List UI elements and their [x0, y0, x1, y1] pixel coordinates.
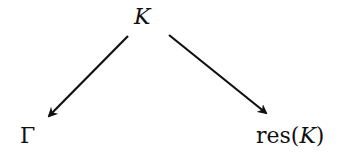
arrow-k-to-res [169, 35, 266, 113]
res-suffix: ) [316, 123, 325, 148]
node-res-k: res(K) [256, 125, 324, 147]
node-k: K [134, 6, 150, 28]
res-prefix: res( [256, 123, 299, 148]
arrow-k-to-gamma [49, 36, 128, 116]
diagram-canvas: K Γ res(K) [0, 0, 349, 161]
node-gamma: Γ [20, 125, 35, 147]
res-var: K [299, 123, 315, 148]
